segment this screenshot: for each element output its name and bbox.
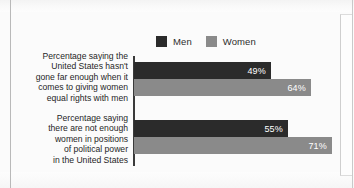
bar-group-1-bars: 49% 64%: [134, 62, 342, 96]
page-rule-left: [10, 0, 11, 188]
category-label-2-line-2: there are not enough: [12, 123, 128, 133]
legend-item-men: Men: [156, 36, 192, 47]
bar-women-1: 64%: [134, 79, 311, 96]
category-label-1: Percentage saying the United States hasn…: [12, 51, 128, 103]
bar-value-men-1: 49%: [247, 66, 271, 76]
bar-value-men-2: 55%: [264, 124, 288, 134]
scan-artifact-bottom: [0, 172, 354, 188]
legend-swatch-men-icon: [156, 36, 167, 47]
category-label-2-line-3: women in positions: [12, 134, 128, 144]
bar-women-2: 71%: [134, 137, 332, 154]
bar-row-1-women: 64%: [134, 79, 342, 96]
legend-label-women: Women: [223, 36, 256, 47]
bar-men-1: 49%: [134, 62, 271, 79]
bar-row-1-men: 49%: [134, 62, 342, 79]
scan-artifact-top: [0, 0, 354, 12]
category-label-1-line-3: gone far enough when it: [12, 72, 128, 82]
category-label-1-line-1: Percentage saying the: [12, 51, 128, 61]
legend-item-women: Women: [206, 36, 256, 47]
legend-swatch-women-icon: [206, 36, 217, 47]
bar-group-2: Percentage saying there are not enough w…: [12, 112, 342, 164]
legend-label-men: Men: [173, 36, 192, 47]
category-label-1-line-5: equal rights with men: [12, 93, 128, 103]
bar-chart-figure: Men Women Percentage saying the United S…: [0, 0, 354, 188]
bar-value-women-2: 71%: [308, 141, 332, 151]
chart-legend: Men Women: [156, 36, 256, 47]
bar-men-2: 55%: [134, 120, 288, 137]
category-label-1-line-2: United States hasn't: [12, 61, 128, 71]
bar-row-2-men: 55%: [134, 120, 342, 137]
page-rule-right: [352, 0, 353, 188]
category-label-2: Percentage saying there are not enough w…: [12, 113, 128, 165]
category-label-2-line-1: Percentage saying: [12, 113, 128, 123]
bar-group-1: Percentage saying the United States hasn…: [12, 54, 342, 106]
bar-row-2-women: 71%: [134, 137, 342, 154]
plot-area: Percentage saying the United States hasn…: [12, 54, 342, 170]
category-label-1-line-4: comes to giving women: [12, 82, 128, 92]
bar-group-2-bars: 55% 71%: [134, 120, 342, 154]
category-label-2-line-4: of political power: [12, 144, 128, 154]
category-label-2-line-5: in the United States: [12, 155, 128, 165]
bar-value-women-1: 64%: [287, 83, 311, 93]
